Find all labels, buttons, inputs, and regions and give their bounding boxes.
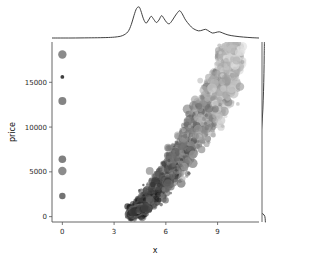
x-tick-label: 3 — [112, 228, 116, 236]
scatter-point — [135, 199, 137, 201]
scatter-point — [157, 175, 160, 178]
x-axis-label: x — [153, 246, 158, 255]
scatter-point — [189, 150, 197, 158]
scatter-point — [205, 97, 210, 102]
y-tick-label: 0 — [43, 213, 47, 221]
scatter-point — [215, 70, 221, 76]
scatter-point — [205, 136, 211, 142]
scatter-point — [205, 112, 212, 119]
outlier-point — [58, 167, 66, 175]
scatter-point — [190, 106, 194, 110]
scatter-point — [222, 74, 231, 83]
y-axis-label: price — [8, 122, 17, 142]
scatter-point — [182, 128, 186, 132]
scatter-point — [205, 126, 210, 131]
scatter-point — [193, 121, 197, 125]
scatter-point — [180, 143, 187, 150]
scatter-point — [141, 204, 149, 212]
scatter-point — [224, 63, 228, 67]
scatter-point — [196, 103, 203, 110]
scatter-point — [170, 145, 173, 148]
scatter-point — [179, 164, 182, 167]
scatter-point — [230, 56, 234, 60]
scatter-point — [199, 137, 205, 143]
scatter-point — [212, 114, 216, 118]
scatter-point — [150, 182, 156, 188]
scatter-point — [175, 158, 178, 161]
scatter-point — [218, 51, 222, 55]
scatter-point — [204, 141, 210, 147]
scatter-point — [217, 99, 221, 103]
scatter-point — [210, 96, 215, 101]
scatter-point — [197, 78, 203, 84]
scatter-point — [179, 149, 184, 154]
scatter-point — [201, 122, 205, 126]
outlier-points-layer — [58, 50, 66, 199]
y-tick-label: 15000 — [25, 79, 47, 87]
scatter-point — [185, 175, 188, 178]
scatter-point — [189, 110, 193, 114]
scatter-point — [161, 172, 164, 175]
scatter-point — [192, 133, 199, 140]
scatter-point — [236, 82, 244, 90]
joint-plot-figure: 0369050001000015000 x price — [0, 0, 312, 264]
outlier-point — [60, 75, 64, 79]
scatter-point — [200, 86, 209, 95]
scatter-point — [231, 77, 235, 81]
scatter-point — [236, 102, 240, 106]
scatter-point — [184, 159, 188, 163]
scatter-point — [189, 133, 194, 138]
scatter-point — [200, 95, 205, 100]
scatter-point — [240, 60, 244, 64]
scatter-point — [161, 187, 165, 191]
x-tick-label: 0 — [60, 228, 64, 236]
plot-canvas: 0369050001000015000 x price — [0, 0, 312, 264]
scatter-point — [163, 179, 172, 188]
scatter-point — [169, 152, 175, 158]
scatter-point — [182, 155, 185, 158]
scatter-point — [223, 58, 229, 64]
marginal-top-kde — [52, 7, 259, 38]
scatter-point — [235, 49, 242, 56]
scatter-point — [202, 117, 206, 121]
scatter-point — [212, 118, 217, 123]
scatter-point — [204, 122, 207, 125]
scatter-point — [183, 134, 188, 139]
scatter-point — [162, 197, 169, 204]
outlier-point — [58, 50, 66, 58]
outlier-point — [59, 193, 65, 199]
scatter-point — [142, 184, 144, 186]
scatter-point — [212, 105, 219, 112]
scatter-point — [180, 161, 183, 164]
scatter-point — [191, 128, 196, 133]
scatter-point — [169, 169, 173, 173]
scatter-point — [129, 208, 137, 216]
x-tick-label: 6 — [164, 228, 169, 236]
scatter-point — [211, 79, 219, 87]
scatter-point — [220, 85, 226, 91]
scatter-point — [156, 187, 162, 193]
scatter-point — [227, 45, 236, 54]
outlier-point — [59, 156, 67, 164]
scatter-point — [138, 188, 144, 194]
outlier-point — [58, 97, 66, 105]
y-tick-label: 10000 — [25, 124, 47, 132]
scatter-point — [187, 172, 190, 175]
scatter-point — [221, 125, 225, 129]
scatter-point — [172, 162, 177, 167]
scatter-point — [180, 135, 183, 138]
scatter-point — [146, 167, 154, 175]
y-tick-label: 5000 — [29, 168, 47, 176]
scatter-point — [143, 194, 145, 196]
scatter-point — [173, 171, 177, 175]
scatter-point — [221, 100, 225, 104]
x-tick-label: 9 — [215, 228, 219, 236]
scatter-point — [188, 125, 192, 129]
scatter-point — [157, 198, 162, 203]
scatter-points-layer — [124, 39, 247, 222]
